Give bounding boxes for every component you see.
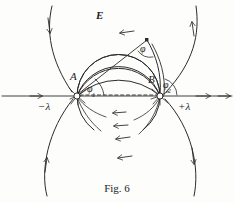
figure-caption: Fig. 6	[0, 182, 234, 194]
angle-label-phi1: φ1	[87, 84, 96, 96]
charge-label-positive: +λ	[178, 101, 190, 112]
arrow-lower-2	[114, 125, 128, 126]
field-line-diagram	[0, 0, 234, 203]
arrow-lower-1	[113, 112, 126, 113]
charge-label-negative: −λ	[38, 101, 50, 112]
outer-line-top-left	[49, 6, 72, 92]
angle-label-phi: φ	[140, 44, 146, 54]
field-lines-group	[2, 6, 232, 196]
charge-marker-a	[74, 93, 80, 99]
arrow-lower-4	[118, 156, 132, 158]
field-label-e: E	[96, 10, 104, 21]
angle-label-phi1-subscript: 1	[92, 92, 95, 98]
angle-label-phi2: φ2	[163, 80, 172, 92]
figure-container: E A B φ φ1 φ2 −λ +λ Fig. 6	[0, 0, 234, 203]
angle-arc-phi1	[95, 79, 104, 95]
angle-label-phi2-subscript: 2	[168, 88, 171, 94]
arrow-upper-main	[120, 31, 134, 33]
point-label-a: A	[70, 71, 77, 82]
charge-marker-b	[157, 93, 163, 99]
arrow-lower-3	[116, 137, 130, 139]
point-p-marker	[145, 38, 148, 41]
arrow-outer-top-right	[192, 22, 194, 36]
point-label-b: B	[148, 74, 155, 85]
